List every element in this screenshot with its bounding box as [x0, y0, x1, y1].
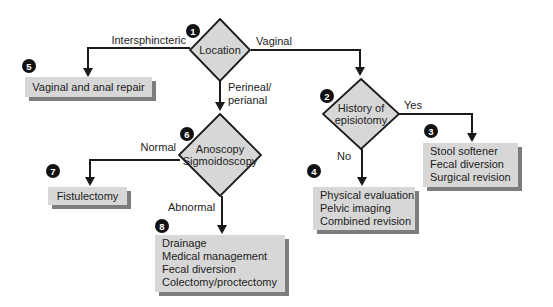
outcome-text: Stool softener: [423, 145, 518, 158]
outcome-text: Fistulectomy: [57, 190, 119, 202]
arrowhead-icon: [355, 67, 365, 76]
step-badge-6: 6: [180, 127, 194, 141]
step-badge-3: 3: [424, 124, 438, 138]
branch-label-no: No: [337, 150, 351, 163]
outcome-text: Vaginal and anal repair: [32, 81, 144, 93]
decision-anoscopy-label: Anoscopy Sigmoidoscopy: [178, 113, 262, 197]
outcome-text: Fecal diversion: [155, 263, 285, 276]
outcome-text: Medical management: [155, 250, 285, 263]
outcome-text: Colectomy/proctectomy: [155, 276, 285, 289]
outcome-text: Surgical revision: [423, 171, 518, 184]
outcome-physical-evaluation: Physical evaluation Pelvic imaging Combi…: [313, 187, 415, 230]
connector-no-v: [361, 149, 363, 179]
arrowhead-icon: [215, 102, 225, 111]
connector-abnormal-v: [221, 196, 223, 227]
step-badge-2: 2: [320, 89, 334, 103]
arrowhead-icon: [217, 225, 227, 234]
decision-label-line: Sigmoidoscopy: [183, 155, 258, 168]
arrowhead-icon: [357, 177, 367, 186]
outcome-text: Physical evaluation: [313, 189, 415, 202]
branch-label-normal: Normal: [126, 141, 176, 154]
branch-label-perineal-line1: Perineal/: [228, 81, 271, 94]
connector-vaginal-h: [251, 49, 361, 51]
connector-yes-v: [471, 113, 473, 135]
outcome-text: Drainage: [155, 237, 285, 250]
connector-yes-h: [399, 113, 473, 115]
outcome-fistulectomy: Fistulectomy: [48, 187, 127, 205]
connector-intersphincteric-h: [87, 47, 190, 49]
branch-label-abnormal: Abnormal: [168, 201, 215, 214]
outcome-text: Combined revision: [313, 215, 415, 228]
decision-label-line: episiotomy: [335, 114, 388, 127]
arrowhead-icon: [467, 133, 477, 142]
branch-label-vaginal: Vaginal: [256, 35, 292, 48]
connector-perineal-v: [219, 81, 221, 104]
fistula-management-flowchart: Location 1 History of episiotomy 2 Anosc…: [0, 0, 553, 307]
step-badge-8: 8: [155, 219, 169, 233]
decision-history-of-episiotomy: History of episiotomy: [322, 78, 400, 150]
outcome-vaginal-anal-repair: Vaginal and anal repair: [25, 77, 152, 97]
branch-label-yes: Yes: [404, 99, 422, 112]
step-badge-5: 5: [22, 59, 36, 73]
step-badge-4: 4: [307, 164, 321, 178]
connector-vaginal-v: [359, 49, 361, 68]
branch-label-intersphincteric: Intersphincteric: [90, 34, 186, 47]
outcome-stool-softener: Stool softener Fecal diversion Surgical …: [423, 143, 518, 187]
connector-normal-h: [89, 159, 180, 161]
arrowhead-icon: [85, 177, 95, 186]
decision-anoscopy-sigmoidoscopy: Anoscopy Sigmoidoscopy: [178, 113, 262, 197]
outcome-drainage: Drainage Medical management Fecal divers…: [155, 235, 285, 292]
connector-normal-v: [89, 159, 91, 179]
decision-label-line: History of: [338, 102, 384, 115]
step-badge-7: 7: [46, 164, 60, 178]
decision-label-line: Anoscopy: [196, 143, 244, 156]
arrowhead-icon: [83, 68, 93, 77]
connector-intersphincteric-v: [87, 47, 89, 69]
decision-label-line: Location: [199, 44, 241, 57]
step-badge-1: 1: [186, 24, 200, 38]
outcome-text: Pelvic imaging: [313, 202, 415, 215]
branch-label-perineal-line2: perianal: [228, 94, 267, 107]
decision-history-label: History of episiotomy: [322, 78, 400, 150]
outcome-text: Fecal diversion: [423, 158, 518, 171]
